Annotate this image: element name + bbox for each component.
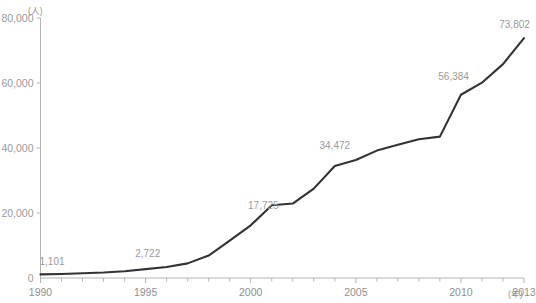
x-axis-tick-1995: 1995: [134, 286, 157, 298]
y-axis-tick-60000: 60,000: [0, 77, 34, 89]
x-axis-tick-1990: 1990: [29, 286, 52, 298]
x-axis-tick-2010: 2010: [449, 286, 472, 298]
data-label-1995: 2,722: [135, 247, 160, 258]
y-axis-tick-80000: 80,000: [0, 12, 34, 24]
data-label-2001: 17,725: [248, 200, 279, 211]
x-axis-tick-2013: 2013: [512, 286, 535, 298]
y-axis-tick-40000: 40,000: [0, 142, 34, 154]
data-label-2013: 73,802: [499, 18, 530, 29]
data-label-2010: 56,384: [438, 70, 469, 81]
x-axis-tick-2000: 2000: [239, 286, 262, 298]
x-axis-tick-2005: 2005: [344, 286, 367, 298]
y-axis-tick-20000: 20,000: [0, 207, 34, 219]
chart-axes: [41, 18, 525, 278]
chart-tick-marks: [37, 18, 525, 283]
y-axis-tick-0: 0: [0, 272, 34, 284]
data-label-1990: 1,101: [40, 255, 65, 266]
data-label-2004: 34,472: [320, 140, 351, 151]
